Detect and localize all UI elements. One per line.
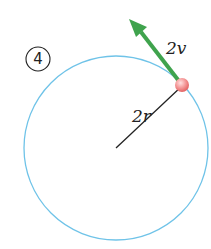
diagram: 4 2v 2r [0,0,211,249]
panel-number: 4 [33,50,43,68]
ball [175,78,189,92]
radius-label: 2r [131,106,152,126]
velocity-label: 2v [165,38,187,58]
